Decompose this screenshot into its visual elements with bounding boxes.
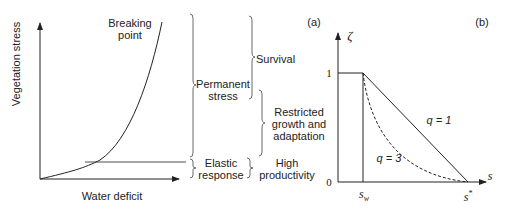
high-line1: High [254, 157, 320, 169]
permanent-line2: stress [195, 90, 251, 102]
high-line2: productivity [254, 169, 320, 181]
stress-curve [40, 22, 162, 179]
restricted-growth-label: Restricted growth and adaptation [266, 106, 332, 142]
panel-a-label: (a) [304, 16, 324, 28]
q3-label: q = 3 [369, 152, 409, 164]
brace-high-productivity [247, 158, 253, 178]
ytick-0: 0 [324, 176, 334, 188]
panel-a-ylabel: Vegetation stress [10, 14, 22, 114]
survival-label: Survival [256, 53, 306, 65]
panel-a-xlabel: Water deficit [72, 190, 152, 202]
s-axis-label: s [484, 170, 496, 182]
breaking-point-line2: point [105, 29, 155, 41]
q1-label: q = 1 [419, 114, 459, 126]
panel-b-label: (b) [472, 16, 492, 28]
high-productivity-label: High productivity [254, 157, 320, 181]
breaking-point-label: Breaking point [105, 17, 155, 41]
breaking-point-line1: Breaking [105, 17, 155, 29]
elastic-response-label: Elastic response [195, 157, 247, 181]
sw-tick-label: sw [354, 188, 374, 205]
panel-b-axes [338, 33, 486, 182]
sw-sub: w [364, 194, 369, 203]
permanent-stress-label: Permanent stress [195, 78, 251, 102]
brace-restricted-growth [259, 90, 265, 156]
permanent-line1: Permanent [195, 78, 251, 90]
ytick-1: 1 [324, 67, 334, 79]
survival-line1: Survival [256, 53, 306, 65]
elastic-line2: response [195, 169, 247, 181]
restricted-line3: adaptation [266, 130, 332, 142]
panel-a-axes [40, 23, 179, 179]
elastic-line1: Elastic [195, 157, 247, 169]
zeta-axis-label: ζ [344, 30, 356, 42]
restricted-line2: growth and [266, 118, 332, 130]
restricted-line1: Restricted [266, 106, 332, 118]
sstar-sup: * [468, 189, 472, 198]
sstar-tick-label: s* [458, 188, 478, 203]
